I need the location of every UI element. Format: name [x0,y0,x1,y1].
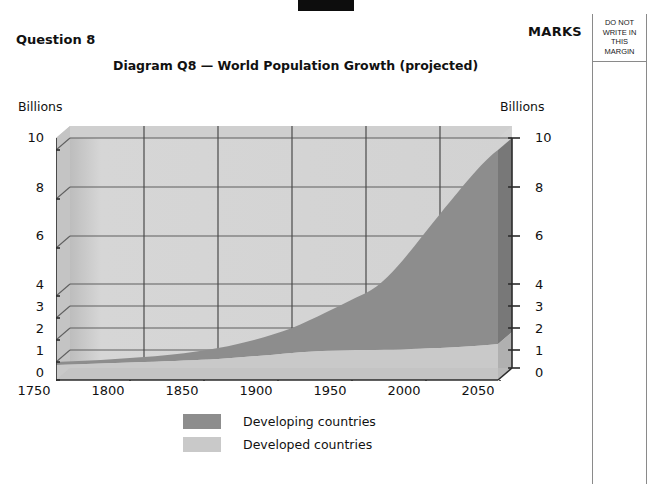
do-not-write-margin: DO NOT WRITE IN THIS MARGIN [592,14,647,484]
y-axis-unit-left: Billions [18,99,63,114]
chart-figure: Billions Billions 10 8 6 4 3 2 1 0 10 8 … [0,0,592,484]
y-tick-left-1: 1 [18,343,44,358]
plot-floor-face [56,368,512,380]
plot-top-face [56,126,512,138]
x-tick-1800: 1800 [82,383,134,398]
y-tick-left-10: 10 [18,130,44,145]
y-tick-left-4: 4 [18,277,44,292]
x-tick-1750: 1750 [8,383,60,398]
series-developing-side-face [498,138,512,344]
y-tick-left-0: 0 [18,365,44,380]
y-tick-right-1: 1 [535,343,561,358]
x-tick-2000: 2000 [378,383,430,398]
y-tick-right-0: 0 [535,365,561,380]
margin-notice-text: DO NOT WRITE IN THIS MARGIN [593,14,646,62]
y-tick-right-6: 6 [535,228,561,243]
plot-left-face [56,126,70,380]
y-tick-left-8: 8 [18,180,44,195]
y-tick-right-10: 10 [535,130,561,145]
y-tick-right-8: 8 [535,180,561,195]
chart-legend: Developing countries Developed countries [183,414,376,460]
x-tick-1850: 1850 [156,383,208,398]
legend-swatch-developed [183,437,221,452]
x-tick-1950: 1950 [304,383,356,398]
y-axis-unit-right: Billions [500,99,545,114]
legend-label-developing: Developing countries [243,414,376,429]
x-tick-2050: 2050 [452,383,504,398]
y-tick-right-3: 3 [535,299,561,314]
legend-item-developed: Developed countries [183,437,376,452]
y-tick-right-2: 2 [535,321,561,336]
plot-area [56,126,512,374]
legend-label-developed: Developed countries [243,437,372,452]
area-chart-svg [56,126,522,381]
y-tick-right-4: 4 [535,277,561,292]
y-tick-left-6: 6 [18,228,44,243]
exam-page: MARKS DO NOT WRITE IN THIS MARGIN Questi… [0,0,652,484]
x-tick-1900: 1900 [230,383,282,398]
legend-item-developing: Developing countries [183,414,376,429]
y-tick-left-2: 2 [18,321,44,336]
legend-swatch-developing [183,414,221,429]
y-tick-left-3: 3 [18,299,44,314]
